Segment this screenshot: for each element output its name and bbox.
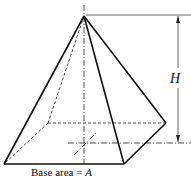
base-area-variable: A: [85, 166, 92, 178]
pyramid-diagram: H Base area = A: [0, 0, 191, 180]
height-label: H: [170, 71, 180, 87]
base-area-label: Base area = A: [31, 166, 92, 178]
base-area-text: Base area =: [31, 166, 85, 178]
pyramid-figure: [0, 0, 191, 180]
